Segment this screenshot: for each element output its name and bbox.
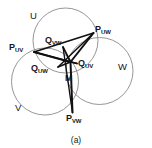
circle-label-v: V (15, 103, 21, 113)
figure-container: U V W PUV PUW PVW QVW QUW QUV M (a) (0, 0, 152, 148)
three-circle-diagram (0, 0, 152, 148)
point-label-q-uv: QUV (78, 59, 93, 68)
point-label-m: M (65, 74, 73, 83)
point-label-q-uw: QUW (31, 64, 48, 73)
figure-caption: (a) (0, 135, 152, 145)
point-label-p-vw: PVW (66, 114, 81, 123)
point-label-p-uw: PUW (95, 25, 111, 34)
circle-label-u: U (30, 11, 37, 21)
point-label-p-uv: PUV (9, 43, 23, 52)
circle-label-w: W (118, 62, 127, 72)
point-label-q-vw: QVW (45, 36, 61, 45)
